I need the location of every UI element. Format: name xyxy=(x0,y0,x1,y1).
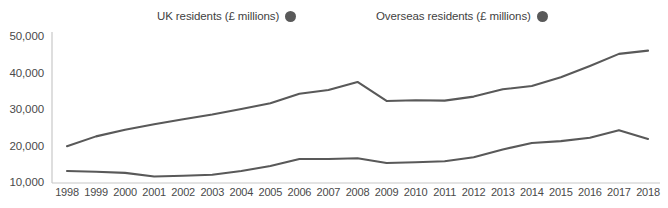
x-axis-tick-label: 2008 xyxy=(346,186,370,198)
y-axis-tick-labels: 50,00040,00030,00020,00010,000 xyxy=(0,0,48,208)
x-axis-tick-label: 2001 xyxy=(142,186,166,198)
x-axis-tick-label: 2000 xyxy=(113,186,137,198)
x-axis-tick-label: 2015 xyxy=(549,186,573,198)
y-axis-tick-label: 40,000 xyxy=(9,67,44,79)
x-axis-tick-label: 2014 xyxy=(520,186,544,198)
x-axis-tick-label: 2004 xyxy=(229,186,253,198)
x-axis-tick-label: 2012 xyxy=(462,186,486,198)
chart-canvas xyxy=(0,0,668,208)
x-axis-tick-label: 2013 xyxy=(491,186,515,198)
x-axis-tick-label: 2006 xyxy=(288,186,312,198)
x-axis-tick-label: 2018 xyxy=(636,186,660,198)
x-axis-tick-label: 2010 xyxy=(404,186,428,198)
x-axis-tick-label: 2002 xyxy=(171,186,195,198)
axis-lines xyxy=(52,32,660,183)
x-axis-tick-label: 2016 xyxy=(578,186,602,198)
y-axis-tick-label: 20,000 xyxy=(9,140,44,152)
x-axis-tick-labels: 1998199920002001200220032004200520062007… xyxy=(0,184,668,208)
series-line-uk-residents xyxy=(67,51,648,147)
x-axis-tick-label: 2017 xyxy=(607,186,631,198)
x-axis-tick-label: 1999 xyxy=(84,186,108,198)
x-axis-tick-label: 2005 xyxy=(259,186,283,198)
y-axis-tick-label: 50,000 xyxy=(9,30,44,42)
series-line-overseas-residents xyxy=(67,130,648,176)
chart-root: UK residents (£ millions) Overseas resid… xyxy=(0,0,668,208)
x-axis-tick-label: 2007 xyxy=(317,186,341,198)
y-axis-tick-label: 30,000 xyxy=(9,103,44,115)
x-axis-tick-label: 2011 xyxy=(433,186,456,198)
x-axis-tick-label: 2003 xyxy=(200,186,224,198)
data-series-group xyxy=(67,51,648,177)
plot-area xyxy=(0,0,668,208)
x-axis-tick-label: 1998 xyxy=(55,186,79,198)
x-axis-tick-label: 2009 xyxy=(375,186,399,198)
